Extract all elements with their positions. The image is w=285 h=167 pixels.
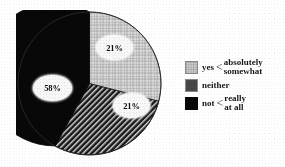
brace-icon: < xyxy=(216,61,223,73)
legend-label-not: not xyxy=(202,98,215,108)
legend-item-yes: yes < absolutely somewhat xyxy=(185,58,285,77)
grid-hatch-swatch-icon xyxy=(185,61,198,74)
legend: yes < absolutely somewhat neither not < … xyxy=(185,58,285,114)
legend-sublabel-somewhat: somewhat xyxy=(224,67,263,76)
legend-item-not: not < really at all xyxy=(185,94,285,113)
legend-item-neither: neither xyxy=(185,79,285,92)
legend-label-neither: neither xyxy=(202,80,230,90)
solid-black-swatch-icon xyxy=(185,97,198,110)
pie-chart-figure: 21% 21% 58% yes < absolutely somewhat ne… xyxy=(0,0,285,167)
legend-label-yes: yes xyxy=(202,62,214,72)
slice-value-neither: 21% xyxy=(113,93,150,118)
dotted-swatch-icon xyxy=(185,79,198,92)
legend-sublabels-not: really at all xyxy=(224,94,246,113)
slice-value-not: 58% xyxy=(33,75,72,101)
slice-value-yes: 21% xyxy=(96,35,133,60)
brace-icon: < xyxy=(217,97,224,109)
legend-sublabel-at-all: at all xyxy=(224,103,246,112)
legend-sublabels-yes: absolutely somewhat xyxy=(224,58,263,77)
